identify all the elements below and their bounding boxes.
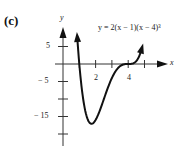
x-axis-label: x bbox=[170, 58, 174, 67]
equation-annotation: y = 2(x − 1)(x − 4)³ bbox=[98, 23, 161, 32]
x-tick-label-2: 2 bbox=[94, 73, 98, 82]
x-axis bbox=[55, 60, 168, 68]
function-curve bbox=[77, 36, 142, 124]
y-axis-label: y bbox=[60, 13, 64, 22]
x-tick-label-4: 4 bbox=[127, 73, 131, 82]
y-tick-label-5: 5 bbox=[46, 41, 50, 50]
x-axis-arrow-icon bbox=[157, 61, 168, 68]
curve-arrow-right-icon bbox=[137, 44, 144, 55]
y-tick-label-minus-5: − 5 bbox=[38, 76, 49, 85]
curve-arrow-left-icon bbox=[74, 32, 81, 42]
y-axis-arrow-icon bbox=[60, 27, 67, 38]
y-axis bbox=[58, 27, 68, 146]
y-tick-label-minus-15: − 15 bbox=[34, 111, 49, 120]
